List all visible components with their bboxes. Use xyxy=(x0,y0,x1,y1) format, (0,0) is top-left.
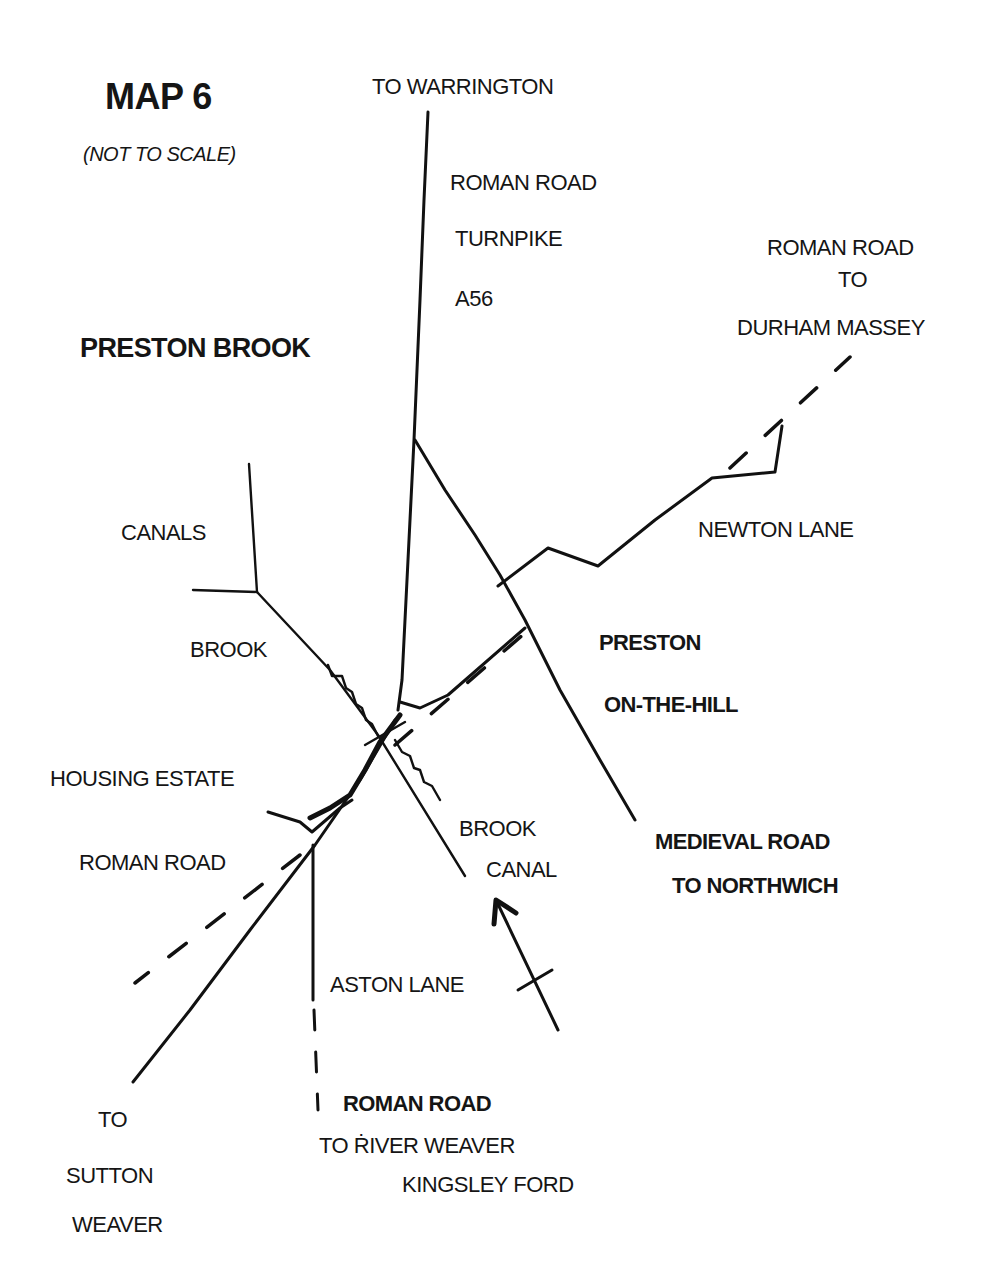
a56-turnpike-road xyxy=(398,112,428,710)
arrow-crossbar xyxy=(518,970,552,990)
roman-road-south-dashed xyxy=(314,1010,318,1110)
label-sutton-to: TO xyxy=(98,1107,127,1133)
map-subtitle: (NOT TO SCALE) xyxy=(83,143,236,166)
label-brook-south: BROOK xyxy=(459,816,536,842)
label-newton-lane: NEWTON LANE xyxy=(698,517,853,543)
central-thick-road xyxy=(310,715,400,818)
label-canals: CANALS xyxy=(121,520,206,546)
label-brook-west: BROOK xyxy=(190,637,267,663)
roman-road-durham-massey-dashed-ne xyxy=(730,357,850,468)
connector-lane xyxy=(400,628,525,708)
canal-direction-arrow xyxy=(496,900,558,1030)
label-to-northwich: TO NORTHWICH xyxy=(672,873,838,899)
canal-west-branch xyxy=(193,590,257,592)
label-housing-estate: HOUSING ESTATE xyxy=(50,766,234,792)
label-roman-road-north: ROMAN ROAD xyxy=(450,170,597,196)
label-sutton: SUTTON xyxy=(66,1163,153,1189)
label-medieval-road: MEDIEVAL ROAD xyxy=(655,829,830,855)
label-to-river-weaver: TO ṘIVER WEAVER xyxy=(319,1133,515,1159)
label-durham-massey: DURHAM MASSEY xyxy=(737,315,925,341)
label-canal-south: CANAL xyxy=(486,857,557,883)
label-roman-road-ne-to: TO xyxy=(838,267,867,293)
label-kingsley-ford: KINGSLEY FORD xyxy=(402,1172,574,1198)
label-aston-lane: ASTON LANE xyxy=(330,972,464,998)
label-preston: PRESTON xyxy=(599,630,701,656)
label-weaver: WEAVER xyxy=(72,1212,163,1238)
canal-to-junction xyxy=(257,592,465,876)
map-title: MAP 6 xyxy=(105,76,212,118)
label-on-the-hill: ON-THE-HILL xyxy=(604,692,738,718)
newton-lane xyxy=(498,426,782,586)
label-to-warrington: TO WARRINGTON xyxy=(372,74,553,100)
roman-road-durham-massey-dashed xyxy=(395,620,540,745)
label-roman-road-south: ROMAN ROAD xyxy=(343,1091,491,1117)
place-name-preston-brook: PRESTON BROOK xyxy=(80,333,310,364)
label-a56: A56 xyxy=(455,286,493,312)
label-roman-road-ne: ROMAN ROAD xyxy=(767,235,914,261)
label-turnpike: TURNPIKE xyxy=(455,226,562,252)
canal-north-branch xyxy=(249,464,257,592)
label-roman-road-west: ROMAN ROAD xyxy=(79,850,226,876)
brook-wavy-south xyxy=(395,740,440,800)
